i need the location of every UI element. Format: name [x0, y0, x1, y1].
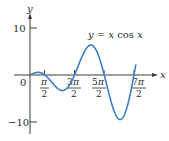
y-tick-label-neg10: −10 [8, 117, 29, 128]
svg-text:2: 2 [136, 89, 142, 99]
x-axis-arrow-icon [152, 73, 158, 77]
y-tick-label-10: 10 [13, 23, 26, 34]
svg-text:2: 2 [42, 89, 48, 99]
origin-label: 0 [20, 77, 26, 88]
y-axis-label: y [26, 3, 33, 14]
svg-text:π: π [97, 77, 105, 87]
x-tick-label-5pi-2: 5 π 2 [92, 77, 106, 99]
svg-text:π: π [137, 77, 145, 87]
x-tick-label-7pi-2: 7 π 2 [132, 77, 146, 99]
x-tick-label-3pi-2: 3 π 2 [67, 77, 81, 99]
chart: y x 0 10 −10 π 2 3 π 2 5 π 2 7 π 2 y = x… [0, 0, 169, 141]
x-axis-label: x [160, 69, 166, 80]
svg-text:2: 2 [71, 89, 77, 99]
svg-text:2: 2 [96, 89, 102, 99]
svg-text:π: π [40, 77, 48, 87]
curve-annotation: y = x cos x [87, 29, 143, 40]
x-tick-label-pi-2: π 2 [40, 77, 49, 99]
